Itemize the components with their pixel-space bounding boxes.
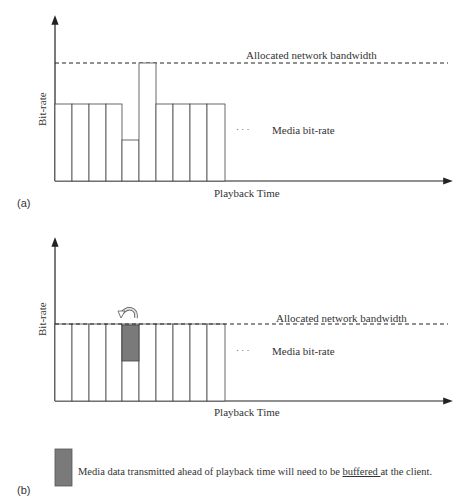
ellipsis-b: · · · — [236, 345, 250, 355]
diagram-canvas — [0, 0, 469, 504]
legend-text-end: at the client. — [380, 466, 432, 477]
x-axis-label-a: Playback Time — [214, 187, 280, 199]
bars-b — [55, 324, 225, 401]
buffered-segment — [122, 325, 139, 361]
legend-underlined-word: buffered — [342, 466, 380, 477]
media-label-a: Media bit-rate — [272, 124, 335, 136]
x-axis-label-b: Playback Time — [214, 406, 280, 418]
panel-a-chart — [55, 20, 448, 181]
legend-swatch — [55, 449, 72, 486]
bandwidth-label-a: Allocated network bandwidth — [246, 49, 377, 61]
ellipsis-a: · · · — [236, 124, 250, 134]
legend-text-part: Media data transmitted ahead of playback… — [78, 466, 342, 477]
bars-a — [55, 63, 225, 181]
panel-label-a: (a) — [17, 197, 30, 209]
legend-text: Media data transmitted ahead of playback… — [78, 466, 432, 477]
bandwidth-label-b: Allocated network bandwidth — [276, 312, 407, 324]
y-axis-label-b: Bit-rate — [36, 302, 48, 336]
y-axis-label-a: Bit-rate — [36, 92, 48, 126]
panel-label-b: (b) — [17, 484, 30, 496]
media-label-b: Media bit-rate — [272, 345, 335, 357]
curved-arrow-icon — [118, 309, 136, 318]
